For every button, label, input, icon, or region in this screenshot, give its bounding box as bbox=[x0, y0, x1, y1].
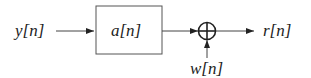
input-label: y[n] bbox=[15, 22, 44, 39]
output-label: r[n] bbox=[263, 22, 291, 39]
block-label: a[n] bbox=[111, 22, 141, 39]
noise-label: w[n] bbox=[190, 60, 223, 77]
